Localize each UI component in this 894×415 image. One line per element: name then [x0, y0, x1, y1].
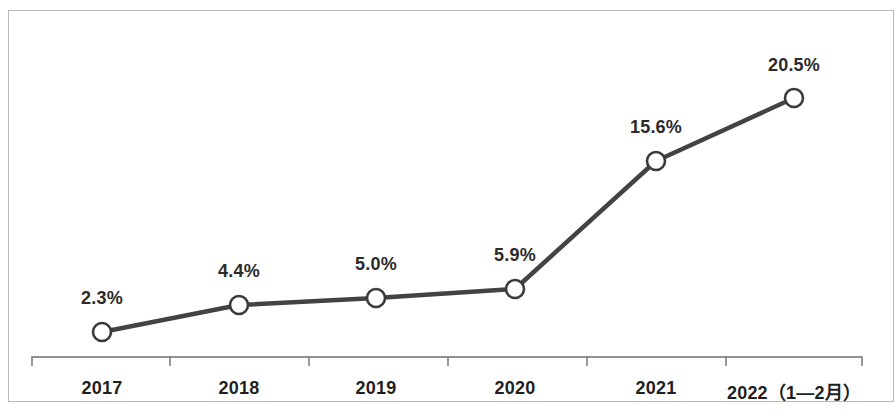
x-tick-label-2020: 2020	[495, 378, 536, 399]
data-point-marker	[93, 323, 111, 341]
data-label-2020: 5.9%	[494, 245, 536, 266]
x-tick-label-2018: 2018	[219, 378, 260, 399]
data-point-marker	[785, 89, 803, 107]
data-point-marker	[367, 289, 385, 307]
series-markers	[93, 89, 803, 341]
data-label-2017: 2.3%	[81, 288, 123, 309]
data-point-marker	[506, 280, 524, 298]
x-axis-line	[32, 357, 862, 366]
data-label-2021: 15.6%	[630, 117, 682, 138]
data-label-2022: 20.5%	[768, 55, 820, 76]
data-label-2018: 4.4%	[218, 261, 260, 282]
x-tick-label-2021: 2021	[636, 378, 677, 399]
series-line	[102, 98, 794, 332]
data-point-marker	[230, 296, 248, 314]
data-label-2019: 5.0%	[355, 254, 397, 275]
x-tick-label-2022: 2022（1—2月）	[727, 378, 861, 404]
x-tick-label-2017: 2017	[82, 378, 123, 399]
data-point-marker	[647, 152, 665, 170]
x-tick-label-2019: 2019	[356, 378, 397, 399]
x-axis	[32, 357, 862, 366]
